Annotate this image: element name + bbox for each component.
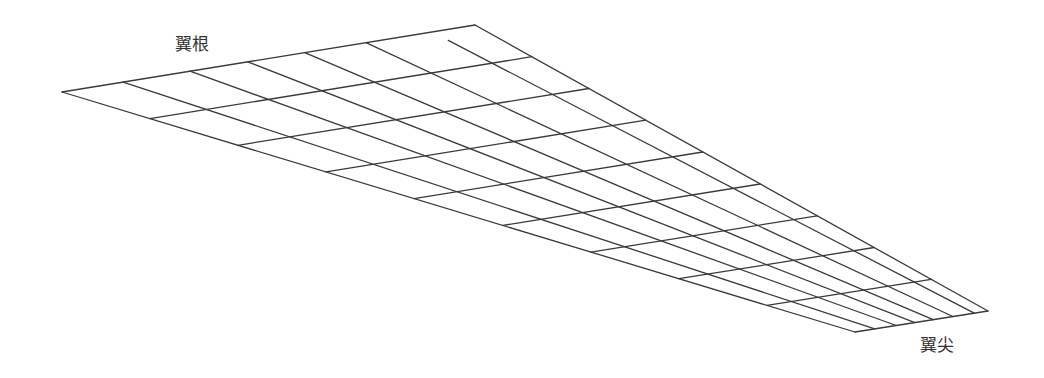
wing-root-label: 翼根 xyxy=(175,36,209,53)
spanwise-line xyxy=(366,43,953,317)
chordwise-grid-lines xyxy=(62,25,988,332)
spanwise-line xyxy=(248,62,915,323)
trailing-edge-line xyxy=(475,25,988,311)
wing-tip-label: 翼尖 xyxy=(920,337,954,354)
spanwise-line xyxy=(448,40,974,313)
spanwise-line xyxy=(190,71,896,325)
leading-edge-line xyxy=(62,92,855,332)
spanwise-grid-lines xyxy=(62,25,988,332)
spanwise-line xyxy=(123,82,875,329)
wing-mesh-diagram xyxy=(0,0,1044,378)
spanwise-line xyxy=(305,53,933,320)
